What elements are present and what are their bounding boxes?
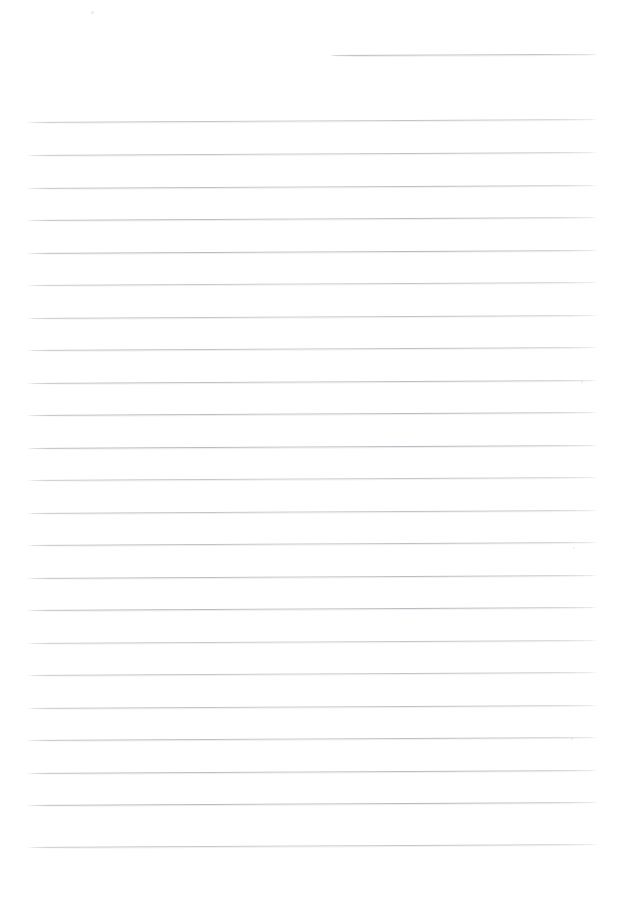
header-rule — [330, 54, 597, 56]
speck-top-left — [91, 11, 94, 14]
scanned-page — [0, 0, 624, 898]
writing-area[interactable] — [27, 110, 597, 855]
